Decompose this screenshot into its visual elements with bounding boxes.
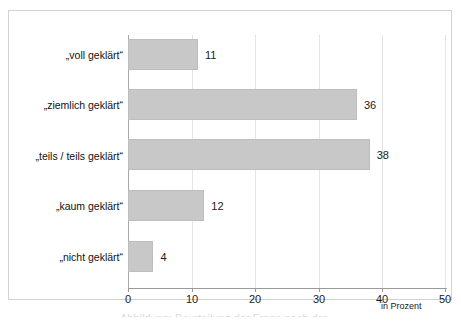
x-tick-mark-0	[128, 288, 129, 292]
x-tick-mark-20	[255, 288, 256, 292]
x-axis-line	[128, 288, 447, 289]
bar-value-label: 11	[205, 49, 216, 60]
x-tick-label-50: 50	[439, 294, 451, 305]
gridline-40	[382, 35, 383, 288]
x-tick-label-10: 10	[186, 294, 198, 305]
bar-value-label: 38	[377, 149, 389, 160]
bar-value-label: 12	[211, 200, 223, 211]
x-axis-unit-label: in Prozent	[381, 302, 422, 311]
category-label-ziemlich-geklaert: „ziemlich geklärt“	[0, 100, 123, 111]
category-label-kaum-geklaert: „kaum geklärt“	[0, 201, 123, 212]
x-tick-label-0: 0	[125, 294, 131, 305]
x-tick-mark-10	[192, 288, 193, 292]
figure-frame: 11 36 38 12 4 „voll geklärt“ „ziemlich g…	[8, 10, 452, 300]
bar-value-label: 4	[160, 251, 166, 262]
x-tick-mark-40	[382, 288, 383, 292]
bar-teils-teils-geklaert	[128, 139, 370, 170]
bar-voll-geklaert	[128, 39, 198, 70]
x-tick-label-20: 20	[249, 294, 261, 305]
category-label-nicht-geklaert: „nicht geklärt“	[0, 252, 123, 263]
x-tick-mark-30	[319, 288, 320, 292]
x-tick-label-30: 30	[313, 294, 325, 305]
caption-fragment: Abbildung: Beurteilung der Frage nach de…	[120, 313, 375, 317]
plot-area: 11 36 38 12 4 „voll geklärt“ „ziemlich g…	[128, 35, 446, 288]
category-label-teils-teils-geklaert: „teils / teils geklärt“	[0, 151, 123, 162]
bar-ziemlich-geklaert	[128, 89, 357, 120]
category-axis-labels: „voll geklärt“ „ziemlich geklärt“ „teils…	[0, 35, 123, 288]
bar-kaum-geklaert	[128, 190, 204, 221]
category-label-voll-geklaert: „voll geklärt“	[0, 50, 123, 61]
bar-value-label: 36	[364, 99, 376, 110]
bar-nicht-geklaert	[128, 241, 153, 272]
x-tick-mark-50	[445, 288, 446, 292]
gridline-50	[445, 35, 446, 288]
